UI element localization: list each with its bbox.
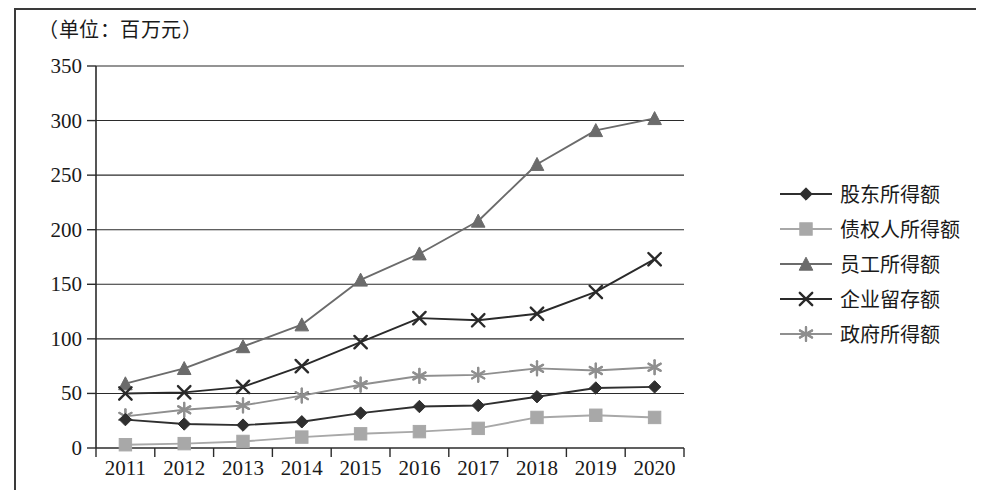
- series-line-2: [125, 118, 654, 383]
- legend-label-2: 员工所得额: [840, 249, 940, 278]
- series-1-point-8-square-marker-icon: [590, 409, 602, 421]
- series-1-point-2-square-marker-icon: [237, 435, 249, 447]
- series-3-point-9-x-marker-icon: [648, 253, 660, 265]
- legend-label-1: 债权人所得额: [840, 214, 960, 243]
- series-1-point-9-square-marker-icon: [648, 411, 660, 423]
- figure-frame-left-border: [14, 8, 16, 490]
- legend-label-3: 企业留存额: [840, 284, 940, 313]
- series-0-point-4-diamond-marker-icon: [354, 407, 366, 419]
- series-2-point-1-triangle-marker-icon: [177, 362, 191, 375]
- legend-key-4: [778, 321, 834, 347]
- series-1-point-3-square-marker-icon: [296, 431, 308, 443]
- legend-item-3[interactable]: 企业留存额: [778, 281, 978, 316]
- asterisk-marker-icon: [778, 321, 834, 347]
- chart-figure: （单位：百万元） 350300250200150100500 201120122…: [0, 0, 987, 496]
- series-2-point-2-triangle-marker-icon: [236, 340, 250, 353]
- diamond-marker-icon: [778, 181, 834, 207]
- series-0-point-3-diamond-marker-icon: [296, 416, 308, 428]
- legend-item-2[interactable]: 员工所得额: [778, 246, 978, 281]
- series-1-point-4-square-marker-icon: [354, 428, 366, 440]
- legend-item-0[interactable]: 股东所得额: [778, 176, 978, 211]
- series-1: [119, 409, 661, 451]
- legend-label-0: 股东所得额: [840, 179, 940, 208]
- legend-key-2: [778, 251, 834, 277]
- y-axis-tick-label-100: 100: [28, 328, 82, 349]
- y-axis-tick-label-50: 50: [28, 383, 82, 404]
- legend-key-0: [778, 181, 834, 207]
- series-0-point-1-diamond-marker-icon: [178, 418, 190, 430]
- legend-key-1: [778, 216, 834, 242]
- chart-unit-title: （单位：百万元）: [38, 14, 202, 43]
- series-0-point-9-diamond-marker-icon: [648, 381, 660, 393]
- series-1-point-7-square-marker-icon: [531, 411, 543, 423]
- series-2-point-7-triangle-marker-icon: [530, 157, 544, 170]
- series-3-point-3-x-marker-icon: [296, 360, 308, 372]
- series-line-3: [125, 259, 654, 393]
- series-2-point-4-triangle-marker-icon: [354, 273, 368, 286]
- series-1-point-1-square-marker-icon: [178, 437, 190, 449]
- series-1-point-0-square-marker-icon: [119, 439, 131, 451]
- figure-frame-top-border: [14, 8, 976, 10]
- series-1-point-5-square-marker-icon: [413, 425, 425, 437]
- series-4: [119, 360, 660, 423]
- y-axis-tick-labels: 350300250200150100500: [24, 66, 82, 448]
- legend-0-diamond-marker-icon: [800, 187, 812, 199]
- triangle-marker-icon: [778, 251, 834, 277]
- series-2-point-9-triangle-marker-icon: [648, 112, 662, 125]
- legend-item-1[interactable]: 债权人所得额: [778, 211, 978, 246]
- y-axis-tick-label-200: 200: [28, 219, 82, 240]
- x-axis-tick-labels: 2011201220132014201520162017201820192020: [96, 458, 684, 488]
- chart-legend: 股东所得额债权人所得额员工所得额企业留存额政府所得额: [778, 176, 978, 351]
- series-0-point-6-diamond-marker-icon: [472, 399, 484, 411]
- y-axis-tick-label-0: 0: [28, 438, 82, 459]
- series-0-point-7-diamond-marker-icon: [531, 391, 543, 403]
- series-1-point-6-square-marker-icon: [472, 422, 484, 434]
- series-3-point-4-x-marker-icon: [354, 336, 366, 348]
- legend-1-square-marker-icon: [800, 222, 812, 234]
- series-0-point-5-diamond-marker-icon: [413, 400, 425, 412]
- plot-svg: [96, 66, 684, 448]
- series-0-point-8-diamond-marker-icon: [590, 382, 602, 394]
- x-axis-tick-label-2020: 2020: [620, 458, 690, 479]
- series-line-1: [125, 415, 654, 444]
- y-axis-tick-label-250: 250: [28, 165, 82, 186]
- series-0-point-2-diamond-marker-icon: [237, 419, 249, 431]
- y-axis-tick-label-350: 350: [28, 56, 82, 77]
- y-axis-tick-label-300: 300: [28, 110, 82, 131]
- plot-area: [96, 66, 684, 448]
- series-2-point-5-triangle-marker-icon: [413, 247, 427, 260]
- square-marker-icon: [778, 216, 834, 242]
- series-line-0: [125, 387, 654, 425]
- legend-key-3: [778, 286, 834, 312]
- series-2: [119, 112, 662, 390]
- y-axis-tick-label-150: 150: [28, 274, 82, 295]
- series-3: [119, 253, 661, 400]
- x-marker-icon: [778, 286, 834, 312]
- series-3-point-8-x-marker-icon: [590, 286, 602, 298]
- series-2-point-3-triangle-marker-icon: [295, 318, 309, 331]
- series-0: [119, 381, 661, 432]
- legend-label-4: 政府所得额: [840, 319, 940, 348]
- legend-item-4[interactable]: 政府所得额: [778, 316, 978, 351]
